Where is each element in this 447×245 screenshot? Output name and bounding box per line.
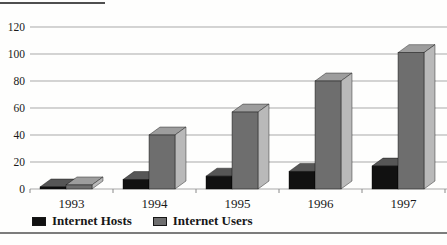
bar-internet-hosts-1996: [289, 171, 315, 189]
bar-internet-users-1995: [232, 112, 258, 189]
bar-internet-users-1997-side-face: [424, 45, 435, 189]
legend-item-internet-hosts: Internet Hosts: [32, 213, 132, 229]
bottom-rule: [0, 232, 447, 234]
x-axis-label-1994: 1994: [142, 196, 169, 211]
legend-item-internet-users: Internet Users: [153, 213, 253, 229]
y-axis-label-20: 20: [14, 156, 26, 168]
bar-internet-hosts-1994: [123, 180, 149, 189]
bar-internet-users-1995-side-face: [258, 104, 269, 189]
bar-internet-users-1994-side-face: [175, 127, 186, 189]
x-axis-label-1996: 1996: [308, 196, 335, 211]
x-axis-label-1993: 1993: [59, 196, 85, 211]
bar-chart: 02040608010012019931994199519961997: [0, 0, 447, 245]
bar-internet-users-1996: [315, 81, 341, 189]
bar-internet-hosts-1995: [206, 176, 232, 189]
y-axis-label-0: 0: [19, 183, 25, 195]
y-axis-label-60: 60: [14, 102, 26, 114]
legend-label-internet-users: Internet Users: [173, 213, 253, 229]
bar-internet-users-1993: [66, 185, 92, 189]
bar-internet-users-1994: [149, 135, 175, 189]
y-axis-label-40: 40: [14, 129, 26, 141]
x-axis-label-1997: 1997: [391, 196, 418, 211]
bar-internet-hosts-1997: [372, 166, 398, 189]
bar-internet-hosts-1993: [40, 187, 66, 189]
chart-page: 02040608010012019931994199519961997 Inte…: [0, 0, 447, 245]
x-axis-label-1995: 1995: [225, 196, 251, 211]
y-axis-label-100: 100: [8, 48, 26, 60]
legend-swatch-internet-users: [153, 217, 167, 226]
chart-legend: Internet Hosts Internet Users: [32, 214, 253, 228]
bar-internet-users-1997: [398, 53, 424, 189]
bar-internet-users-1996-side-face: [341, 73, 352, 189]
y-axis-label-80: 80: [14, 75, 26, 87]
y-axis-label-120: 120: [8, 21, 26, 33]
legend-label-internet-hosts: Internet Hosts: [52, 213, 132, 229]
legend-swatch-internet-hosts: [32, 217, 46, 226]
